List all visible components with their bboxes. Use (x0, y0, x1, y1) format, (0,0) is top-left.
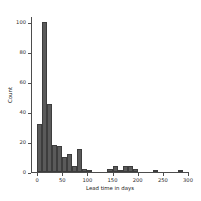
x-tick-mark (138, 173, 139, 176)
histogram-bar (153, 170, 158, 172)
x-tick-label: 300 (183, 178, 193, 183)
plot-axes: 020406080100 050100150200250300 (31, 17, 189, 173)
y-tick-mark (28, 173, 31, 174)
y-tick-label: 80 (19, 50, 26, 55)
x-tick-label: 250 (158, 178, 168, 183)
histogram-figure: 020406080100 050100150200250300 Lead tim… (0, 0, 201, 201)
y-tick-label: 0 (23, 170, 26, 175)
y-tick-label: 100 (16, 20, 26, 25)
histogram-bar (87, 170, 92, 172)
y-axis-label: Count (8, 87, 13, 103)
x-tick-mark (62, 173, 63, 176)
x-tick-label: 200 (133, 178, 143, 183)
histogram-bar (133, 169, 138, 172)
x-tick-label: 0 (35, 178, 38, 183)
x-tick-mark (87, 173, 88, 176)
x-tick-mark (188, 173, 189, 176)
y-tick-label: 40 (19, 110, 26, 115)
y-tick-label: 20 (19, 140, 26, 145)
x-tick-mark (37, 173, 38, 176)
x-tick-label: 100 (82, 178, 92, 183)
histogram-bars (31, 17, 189, 172)
y-tick-label: 60 (19, 80, 26, 85)
x-axis-spine (31, 172, 189, 173)
x-tick-label: 50 (59, 178, 66, 183)
histogram-bar (178, 170, 183, 172)
x-tick-label: 150 (108, 178, 118, 183)
x-axis-label: Lead time in days (31, 186, 189, 191)
x-tick-mark (163, 173, 164, 176)
x-tick-mark (113, 173, 114, 176)
